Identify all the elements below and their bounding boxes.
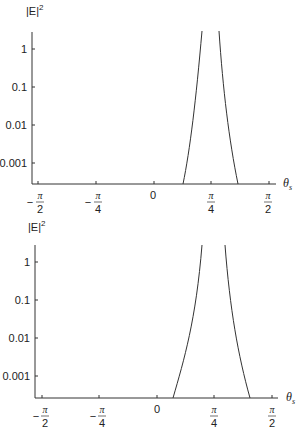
x-ticks: − π 2 − π 4 0 π 4 π 2 bbox=[33, 395, 276, 429]
curve-right-branch bbox=[219, 31, 238, 184]
y-tick-label: 0.01 bbox=[9, 332, 30, 344]
svg-text:π: π bbox=[265, 190, 271, 201]
svg-text:2: 2 bbox=[37, 203, 43, 215]
x-axis-label: θs bbox=[283, 176, 292, 192]
y-tick-label: 1 bbox=[21, 43, 27, 55]
svg-text:2: 2 bbox=[269, 417, 275, 429]
svg-text:−: − bbox=[90, 410, 96, 422]
y-tick-label: 0.01 bbox=[6, 119, 27, 131]
svg-text:π: π bbox=[42, 404, 48, 415]
y-tick-label: 0.1 bbox=[12, 81, 27, 93]
top-plot: |E|2 1 0.1 0.01 0.001 − π 2 − bbox=[0, 3, 292, 215]
svg-text:−: − bbox=[27, 196, 33, 208]
y-axis-label: |E|2 bbox=[26, 3, 44, 17]
y-axis-label: |E|2 bbox=[28, 219, 46, 233]
curve-left-branch bbox=[173, 245, 202, 398]
svg-text:2: 2 bbox=[265, 203, 271, 215]
curve-left-branch bbox=[183, 31, 202, 184]
y-ticks: 1 0.1 0.01 0.001 bbox=[2, 256, 38, 382]
x-ticks: − π 2 − π 4 0 π 4 π 2 bbox=[27, 181, 272, 215]
svg-text:4: 4 bbox=[208, 203, 214, 215]
svg-text:4: 4 bbox=[211, 417, 217, 429]
svg-text:π: π bbox=[269, 404, 275, 415]
bottom-plot: |E|2 1 0.1 0.01 0.001 − π 2 − π 4 bbox=[2, 219, 295, 429]
svg-text:2: 2 bbox=[42, 417, 48, 429]
y-tick-label: 1 bbox=[24, 256, 30, 268]
svg-text:−: − bbox=[85, 196, 91, 208]
y-tick-label: 0.001 bbox=[0, 157, 27, 169]
y-ticks: 1 0.1 0.01 0.001 bbox=[0, 43, 35, 169]
x-axis-label: θs bbox=[286, 390, 295, 406]
svg-text:0: 0 bbox=[154, 403, 160, 415]
svg-text:π: π bbox=[211, 404, 217, 415]
svg-text:0: 0 bbox=[150, 189, 156, 201]
svg-text:−: − bbox=[33, 410, 39, 422]
svg-text:4: 4 bbox=[95, 203, 101, 215]
curve-right-branch bbox=[225, 245, 250, 398]
svg-text:π: π bbox=[95, 190, 101, 201]
y-tick-label: 0.1 bbox=[15, 294, 30, 306]
y-tick-label: 0.001 bbox=[2, 370, 30, 382]
svg-text:π: π bbox=[37, 190, 43, 201]
svg-text:π: π bbox=[99, 404, 105, 415]
chart-canvas: |E|2 1 0.1 0.01 0.001 − π 2 − bbox=[0, 0, 304, 430]
svg-text:4: 4 bbox=[99, 417, 105, 429]
svg-text:π: π bbox=[208, 190, 214, 201]
